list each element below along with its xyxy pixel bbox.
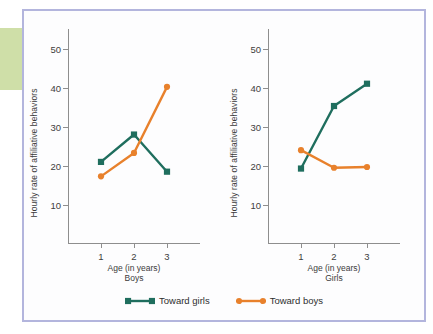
y-axis-label: Hourly rate of affiliative behaviors <box>229 88 239 217</box>
y-axis-tick <box>63 166 69 167</box>
plot-area-girls: 1020304050123 <box>268 29 400 244</box>
panel-title-boys: Boys <box>68 273 200 283</box>
legend-item-label: Toward boys <box>270 295 323 306</box>
x-axis-tick-label: 3 <box>364 251 369 262</box>
y-axis-tick <box>263 88 269 89</box>
x-axis-tick <box>367 243 368 248</box>
x-axis-tick <box>101 243 102 248</box>
charts-row: Hourly rate of affiliative behaviors 102… <box>24 11 424 294</box>
x-axis-tick-label: 2 <box>331 251 336 262</box>
y-axis-tick-label: 30 <box>250 121 261 132</box>
x-axis-tick <box>134 243 135 248</box>
chart-panel-boys: Hourly rate of affiliative behaviors 102… <box>24 11 224 294</box>
x-axis-tick <box>301 243 302 248</box>
data-point-marker <box>131 131 137 137</box>
y-axis-tick <box>263 205 269 206</box>
legend-square-marker-icon <box>125 296 155 306</box>
chart-legend: Toward girlsToward boys <box>24 295 424 306</box>
x-axis-tick-label: 3 <box>164 251 169 262</box>
data-point-marker <box>364 81 370 87</box>
x-axis-tick-label: 1 <box>298 251 303 262</box>
data-point-marker <box>98 173 104 179</box>
x-axis-tick-label: 2 <box>131 251 136 262</box>
y-axis-tick <box>63 127 69 128</box>
legend-item-label: Toward girls <box>159 295 210 306</box>
data-point-marker <box>164 84 170 90</box>
y-axis-tick-label: 20 <box>50 160 61 171</box>
legend-circle-marker-icon <box>236 296 266 306</box>
y-axis-label: Hourly rate of affiliative behaviors <box>29 88 39 217</box>
y-axis-tick <box>263 166 269 167</box>
x-axis-tick <box>334 243 335 248</box>
data-point-marker <box>298 165 304 171</box>
y-axis-tick <box>63 49 69 50</box>
x-axis-label-girls: Age (in years) Girls <box>268 263 400 283</box>
data-point-marker <box>364 164 370 170</box>
data-point-marker <box>131 150 137 156</box>
data-point-marker <box>298 147 304 153</box>
y-axis-tick-label: 50 <box>250 43 261 54</box>
legend-item: Toward girls <box>125 295 210 306</box>
plot-area-boys: 1020304050123 <box>68 29 200 244</box>
data-point-marker <box>331 103 337 109</box>
y-axis-tick-label: 40 <box>50 82 61 93</box>
y-axis-tick <box>63 205 69 206</box>
y-axis-tick <box>263 127 269 128</box>
y-axis-tick-label: 10 <box>250 199 261 210</box>
x-axis-tick <box>167 243 168 248</box>
data-point-marker <box>331 165 337 171</box>
data-point-marker <box>98 159 104 165</box>
y-axis-tick-label: 10 <box>50 199 61 210</box>
x-axis-label-boys: Age (in years) Boys <box>68 263 200 283</box>
data-point-marker <box>164 169 170 175</box>
figure-frame: Hourly rate of affiliative behaviors 102… <box>22 9 426 322</box>
x-axis-tick-label: 1 <box>98 251 103 262</box>
y-axis-tick <box>263 49 269 50</box>
y-axis-tick-label: 40 <box>250 82 261 93</box>
chart-panel-girls: Hourly rate of affiliative behaviors 102… <box>224 11 424 294</box>
x-axis-caption: Age (in years) <box>68 263 200 273</box>
series-layer-girls <box>268 29 400 244</box>
y-axis-tick-label: 20 <box>250 160 261 171</box>
panel-title-girls: Girls <box>268 273 400 283</box>
legend-item: Toward boys <box>236 295 323 306</box>
series-layer-boys <box>68 29 200 244</box>
x-axis-caption: Age (in years) <box>268 263 400 273</box>
y-axis-tick-label: 50 <box>50 43 61 54</box>
y-axis-tick-label: 30 <box>50 121 61 132</box>
y-axis-tick <box>63 88 69 89</box>
